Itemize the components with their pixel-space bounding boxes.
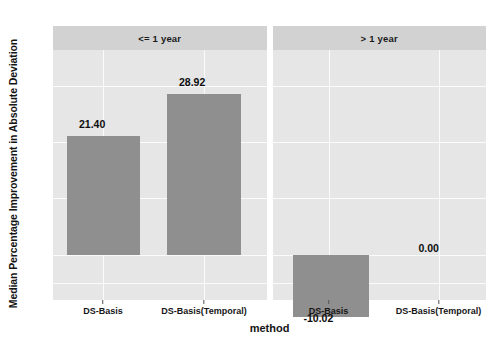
strip-label-gt-1-year: > 1 year: [273, 26, 487, 50]
gridline-y-40: [53, 86, 267, 87]
gridline-y-20: [273, 198, 487, 199]
x-tick-ds-basis-temporal: DS-Basis(Temporal): [161, 300, 246, 316]
x-axis-ticks-gt-1-year: DS-Basis DS-Basis(Temporal): [273, 300, 487, 322]
bar-value-le-1-year-ds-basis-temporal: 28.92: [179, 76, 205, 88]
strip-label-le-1-year: <= 1 year: [53, 26, 267, 50]
bar-le-1-year-ds-basis: [67, 136, 140, 255]
tick-mark-icon: [438, 300, 439, 304]
gridline-y-0: [53, 255, 267, 256]
plot-area-le-1-year: 21.40 28.92: [53, 50, 267, 300]
gridline-y-neg10: [53, 283, 267, 284]
x-tick-ds-basis: DS-Basis: [309, 300, 349, 316]
facet-panel-le-1-year: <= 1 year 21.40 28.92 DS-Basis: [53, 26, 267, 300]
gridline-x-ds-basis-temporal: [439, 50, 440, 300]
bar-le-1-year-ds-basis-temporal: [167, 94, 241, 255]
tick-mark-icon: [102, 300, 103, 304]
x-axis-ticks-le-1-year: DS-Basis DS-Basis(Temporal): [53, 300, 267, 322]
x-tick-ds-basis: DS-Basis: [83, 300, 123, 316]
gridline-y-30: [273, 142, 487, 143]
bar-value-le-1-year-ds-basis: 21.40: [79, 118, 105, 130]
y-axis-title: Median Percentage Improvement in Absolut…: [0, 0, 26, 347]
tick-mark-icon: [328, 300, 329, 304]
panel-container: <= 1 year 21.40 28.92 DS-Basis: [53, 26, 486, 300]
gridline-y-40: [273, 86, 487, 87]
bar-value-gt-1-year-ds-basis-temporal: 0.00: [419, 242, 439, 254]
x-tick-ds-basis-temporal: DS-Basis(Temporal): [396, 300, 481, 316]
plot-area-gt-1-year: -10.02 0.00: [273, 50, 487, 300]
tick-mark-icon: [203, 300, 204, 304]
x-axis-title: method: [53, 322, 486, 334]
chart-page: Median Percentage Improvement in Absolut…: [0, 0, 492, 347]
facet-panel-gt-1-year: > 1 year -10.02 0.00 DS-Basis: [273, 26, 487, 300]
